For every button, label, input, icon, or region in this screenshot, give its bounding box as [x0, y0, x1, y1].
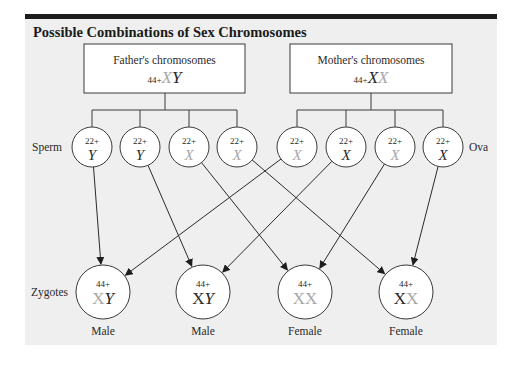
ovum-circle-4: 22+X [423, 127, 463, 167]
sex-label: Male [191, 325, 215, 337]
autosome-count: 22+ [436, 136, 450, 146]
ovum-circle-2: 22+X [326, 127, 366, 167]
autosome-count: 44+ [196, 279, 210, 289]
sex-chromosomes: XY [192, 289, 215, 308]
autosome-count: 22+ [85, 136, 99, 146]
autosome-count: 22+ [290, 136, 304, 146]
sex-chromosome: X [231, 147, 242, 163]
zygote-circle-4: 44+XX [379, 265, 433, 319]
autosome-count: 22+ [339, 136, 353, 146]
autosome-count: 44+ [96, 279, 110, 289]
sperm-circle-2: 22+Y [120, 127, 160, 167]
ova-label: Ova [469, 141, 488, 153]
sperm-circle-1: 22+Y [72, 127, 112, 167]
autosome-count: 44+ [298, 279, 312, 289]
sex-chromosome: X [183, 147, 194, 163]
sex-label: Female [389, 325, 423, 337]
sperm-label: Sperm [32, 141, 62, 154]
sex-chromosomes: XX [394, 289, 419, 308]
mother-box: Mother's chromosomes 44+XX [290, 44, 452, 93]
ovum-circle-1: 22+X [277, 127, 317, 167]
autosome-count: 44+ [399, 279, 413, 289]
sex-chromosomes: XY [92, 289, 115, 308]
father-box: Father's chromosomes 44+XY [84, 44, 245, 93]
top-bar [25, 14, 497, 19]
sperm-circle-4: 22+X [217, 127, 257, 167]
sex-chromosomes: XX [293, 289, 318, 308]
ovum-circle-3: 22+X [375, 127, 415, 167]
mother-label: Mother's chromosomes [317, 54, 425, 66]
zygotes-label: Zygotes [31, 286, 69, 299]
autosome-count: 22+ [388, 136, 402, 146]
sex-label: Male [91, 325, 115, 337]
autosome-count: 22+ [230, 136, 244, 146]
sex-label: Female [288, 325, 322, 337]
sex-chromosome: X [340, 147, 351, 163]
sex-chromosome: X [389, 147, 400, 163]
autosome-count: 22+ [133, 136, 147, 146]
diagram-title: Possible Combinations of Sex Chromosomes [33, 24, 307, 40]
autosome-count: 22+ [182, 136, 196, 146]
zygote-circle-1: 44+XY [76, 265, 130, 319]
sperm-circle-3: 22+X [169, 127, 209, 167]
sex-chromosome: X [437, 147, 448, 163]
father-label: Father's chromosomes [113, 54, 216, 66]
sex-chromosome: X [291, 147, 302, 163]
sex-chromosome-diagram: Possible Combinations of Sex Chromosomes… [0, 0, 519, 365]
zygote-circle-2: 44+XY [176, 265, 230, 319]
zygote-circle-3: 44+XX [278, 265, 332, 319]
